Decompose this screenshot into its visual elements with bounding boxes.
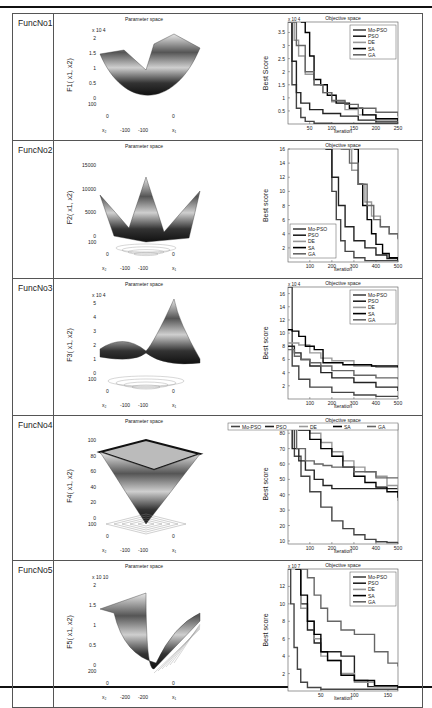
table-row: FuncNo2Parameter spaceF2( x1, x2)0500010… [13, 141, 423, 279]
x-tick-label: 300 [349, 263, 358, 269]
figure-cell: Parameter spaceF5( x1, x2)x 10 1000.511.… [53, 561, 422, 708]
figure-cell: Parameter spaceF3( x1, x2)x 10 401234510… [53, 279, 422, 416]
function-name: FuncNo2 [13, 141, 54, 279]
objective-chart: Objective spaceIterationBest score100200… [262, 142, 402, 272]
y-tick-label: 16 [279, 291, 285, 297]
y-tick-label: 2 [282, 245, 285, 251]
x1-tick-label: -200 [138, 694, 148, 700]
z-axis-label: F4( x1, x2) [66, 469, 74, 502]
y-tick-label: 16 [279, 146, 285, 152]
x2-tick-label: 100 [88, 521, 97, 527]
table-row: FuncNo5Parameter spaceF5( x1, x2)x 10 10… [13, 561, 423, 708]
legend-label: GA [368, 317, 376, 323]
surface-title: Parameter space [124, 281, 162, 287]
z-tick-label: 1.5 [89, 50, 96, 56]
x2-tick-label: 0 [106, 533, 109, 539]
legend: Mo-PSOPSODESAGA [228, 423, 398, 430]
y-tick-label: 6 [282, 636, 285, 642]
z-tick-label: 5000 [84, 209, 95, 215]
z-tick-label: 2 [93, 342, 96, 348]
legend: Mo-PSOPSODESAGA [290, 224, 336, 258]
y-tick-label: 12 [279, 583, 285, 589]
y-tick-label: 10 [279, 330, 285, 336]
legend: Mo-PSOPSODESAGA [350, 572, 396, 606]
surface-title: Parameter space [124, 16, 162, 22]
function-name: FuncNo3 [13, 279, 54, 416]
z-tick-label: 4 [93, 314, 96, 320]
z-tick-label: 0.5 [89, 80, 96, 86]
legend-label: PSO [368, 33, 379, 39]
objective-chart: Objective spaceIterationBest scorex 10 4… [262, 280, 402, 409]
z-tick-label: 2 [93, 582, 96, 588]
y-tick-label: 2 [282, 383, 285, 389]
chart-title: Objective space [325, 280, 361, 286]
table-row: FuncNo1Parameter spaceF1( x1, x2)x 10 40… [13, 14, 423, 141]
legend-label: GA [368, 52, 376, 58]
z-tick-label: 1.5 [89, 602, 96, 608]
x1-axis-label: x₁ [172, 694, 177, 700]
z-tick-label: 0.5 [89, 642, 96, 648]
legend-label: SA [308, 245, 315, 251]
legend-label: GA [308, 251, 316, 257]
surface-plot: Parameter spaceF4( x1, x2)02040608010010… [66, 418, 200, 553]
function-name: FuncNo4 [13, 416, 54, 561]
y-tick-label: 8 [282, 618, 285, 624]
z-tick-label: 3 [93, 328, 96, 334]
x2-tick-label: -100 [120, 547, 130, 553]
x-tick-label: 150 [349, 125, 358, 131]
chart-title: Objective space [325, 417, 361, 423]
figure-svg: Parameter spaceF3( x1, x2)x 10 401234510… [54, 279, 422, 411]
x-tick-label: 500 [393, 400, 402, 406]
figure-cell: Parameter spaceF1( x1, x2)x 10 400.511.5… [53, 14, 422, 141]
y-axis-label: Best Score [262, 56, 269, 90]
x2-tick-label: 100 [88, 239, 97, 245]
x2-axis-label: x₂ [102, 127, 107, 133]
x1-axis-label: x₁ [172, 265, 177, 271]
y-tick-label: 30 [279, 507, 285, 513]
x-tick-label: 200 [371, 125, 380, 131]
legend-label: PSO [308, 232, 319, 238]
legend-label: DE [368, 586, 376, 592]
x-tick-label: 400 [371, 263, 380, 269]
figure-svg: Parameter spaceF4( x1, x2)02040608010010… [54, 416, 422, 556]
x1-tick-label: -100 [138, 547, 148, 553]
legend: Mo-PSOPSODESAGA [350, 290, 396, 324]
contour-line [134, 252, 158, 255]
figure-cell: Parameter spaceF2( x1, x2)05000100001500… [53, 141, 422, 279]
z-tick-label: 10000 [82, 186, 96, 192]
x2-tick-label: 100 [88, 376, 97, 382]
x2-axis-label: x₂ [102, 402, 107, 408]
y-tick-label: 4 [282, 653, 285, 659]
figure-svg: Parameter spaceF2( x1, x2)05000100001500… [54, 141, 422, 274]
objective-chart: Objective spaceIterationBest Scorex 10 4… [262, 15, 402, 134]
y-axis-label: Best score [262, 326, 269, 359]
x2-tick-label: 0 [106, 251, 109, 257]
y-tick-label: 1.5 [278, 82, 285, 88]
legend-label: GA [378, 424, 386, 430]
y-tick-label: 10 [279, 601, 285, 607]
z-tick-label: 80 [90, 453, 96, 459]
y-tick-label: 2 [282, 69, 285, 75]
x2-tick-label: -100 [120, 265, 130, 271]
x-tick-label: 250 [393, 125, 402, 131]
z-tick-label: 15000 [82, 162, 96, 168]
x-tick-label: 400 [371, 400, 380, 406]
z-tick-label: 40 [90, 484, 96, 490]
x1-tick-label: 0 [172, 251, 175, 257]
x-tick-label: 300 [349, 400, 358, 406]
y-tick-label: 80 [279, 430, 285, 436]
x-tick-label: 100 [305, 263, 314, 269]
surface-title: Parameter space [124, 563, 162, 569]
x-tick-label: 50 [318, 692, 324, 698]
y-tick-label: 8 [282, 203, 285, 209]
z-tick-label: 5 [93, 300, 96, 306]
y-exponent: x 10 4 [288, 282, 301, 287]
legend-label: DE [308, 238, 316, 244]
legend-label: DE [310, 424, 318, 430]
chart-title: Objective space [325, 142, 361, 148]
x1-axis-label: x₁ [172, 402, 177, 408]
x1-tick-label: -100 [138, 402, 148, 408]
x2-tick-label: -200 [120, 694, 130, 700]
legend-label: SA [368, 593, 375, 599]
x1-tick-label: 0 [172, 533, 175, 539]
